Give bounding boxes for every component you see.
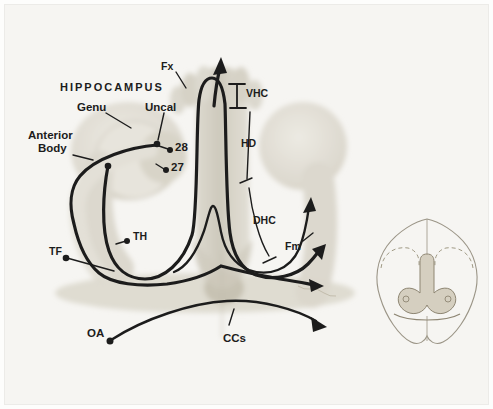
label-oa: OA [87,327,104,339]
area27-dot [163,167,169,173]
label-body: Body [38,142,67,154]
label-area28: 28 [175,141,188,153]
coronal-inset-group [377,219,477,343]
label-fm: Fm [285,240,301,252]
label-hd: HD [241,137,257,149]
oa-dot [107,338,114,345]
label-genu: Genu [77,101,106,113]
label-anterior: Anterior [28,129,73,141]
inset-dashed-right [435,248,473,268]
inset-hippocampi-shape [398,254,456,314]
anatomical-figure: HIPPOCAMPUS Genu Uncal Anterior Body Fx … [0,0,493,409]
label-tf: TF [49,245,62,257]
label-uncal: Uncal [145,101,176,113]
label-dhc: DHC [253,214,276,226]
label-ccs: CCs [223,332,246,344]
oa-arrowhead [311,317,327,332]
area28-dot [167,147,173,153]
fornix-exit-arrowhead [213,57,227,75]
dhc-end-tick [263,257,276,263]
hippocampus-diagram-svg: HIPPOCAMPUS Genu Uncal Anterior Body Fx … [0,0,493,409]
label-th: TH [133,230,147,242]
right-stem-wash [312,178,321,292]
label-area27: 27 [171,161,184,173]
tf-dot [63,255,70,262]
uncal-dot [154,141,161,148]
anterior-body-dot [105,163,112,170]
label-vhc: VHC [246,87,269,99]
label-hippocampus: HIPPOCAMPUS [60,81,164,93]
inset-dashed-left [381,248,419,268]
th-dot [124,238,130,244]
label-fx: Fx [161,60,173,72]
